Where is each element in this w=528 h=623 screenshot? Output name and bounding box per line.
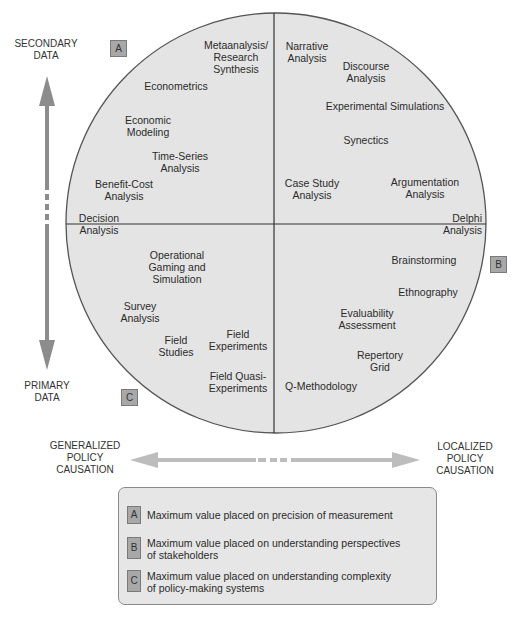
method-economic-modeling: Economic Modeling bbox=[108, 114, 188, 138]
legend-tag-c: C bbox=[127, 570, 141, 592]
legend-item-b: B Maximum value placed on understanding … bbox=[127, 537, 400, 561]
method-delphi-analysis: Delphi Analysis bbox=[410, 212, 482, 236]
method-case-study-analysis: Case Study Analysis bbox=[272, 177, 352, 201]
method-metaanalysis: Metaanalysis/ Research Synthesis bbox=[196, 39, 276, 75]
method-repertory-grid: Repertory Grid bbox=[340, 349, 420, 373]
quadrant-tag-b: B bbox=[490, 256, 507, 273]
quadrant-tag-c: C bbox=[121, 389, 138, 406]
generalized-policy-causation-label: GENERALIZED POLICY CAUSATION bbox=[40, 440, 130, 476]
method-decision-analysis: Decision Analysis bbox=[60, 212, 138, 236]
localized-policy-causation-label: LOCALIZED POLICY CAUSATION bbox=[420, 441, 510, 477]
quadrant-tag-a: A bbox=[110, 40, 127, 57]
method-evaluability-assessment: Evaluability Assessment bbox=[322, 307, 412, 331]
method-brainstorming: Brainstorming bbox=[384, 254, 464, 266]
method-benefit-cost-analysis: Benefit-Cost Analysis bbox=[84, 178, 164, 202]
method-experimental-simulations: Experimental Simulations bbox=[310, 100, 460, 112]
method-synectics: Synectics bbox=[326, 134, 406, 146]
primary-data-label: PRIMARY DATA bbox=[12, 380, 82, 404]
legend-text-b: Maximum value placed on understanding pe… bbox=[147, 537, 400, 561]
legend-text-c: Maximum value placed on understanding co… bbox=[147, 570, 391, 594]
method-field-studies: Field Studies bbox=[146, 334, 206, 358]
horizontal-double-arrow bbox=[130, 452, 420, 468]
method-field-experiments: Field Experiments bbox=[198, 328, 278, 352]
method-argumentation-analysis: Argumentation Analysis bbox=[380, 176, 470, 200]
legend-item-a: A Maximum value placed on precision of m… bbox=[127, 506, 393, 524]
method-operational-gaming: Operational Gaming and Simulation bbox=[137, 249, 217, 285]
method-survey-analysis: Survey Analysis bbox=[100, 300, 180, 324]
legend-box: A Maximum value placed on precision of m… bbox=[118, 487, 437, 605]
legend-text-a: Maximum value placed on precision of mea… bbox=[147, 509, 393, 521]
method-ethnography: Ethnography bbox=[388, 286, 468, 298]
method-discourse-analysis: Discourse Analysis bbox=[326, 60, 406, 84]
method-econometrics: Econometrics bbox=[136, 80, 216, 92]
legend-item-c: C Maximum value placed on understanding … bbox=[127, 570, 391, 594]
legend-tag-b: B bbox=[127, 537, 141, 559]
method-time-series-analysis: Time-Series Analysis bbox=[140, 150, 220, 174]
method-q-methodology: Q-Methodology bbox=[276, 380, 366, 392]
legend-tag-a: A bbox=[127, 506, 141, 524]
method-field-quasi-experiments: Field Quasi- Experiments bbox=[198, 370, 278, 394]
secondary-data-label: SECONDARY DATA bbox=[10, 38, 82, 62]
vertical-double-arrow bbox=[39, 76, 55, 370]
